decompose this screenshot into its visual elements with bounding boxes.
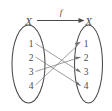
codomain-set-ellipse	[75, 25, 103, 103]
right-arrow-icon	[79, 18, 85, 23]
domain-element-1: 1	[29, 39, 34, 49]
function-mapping-diagram: X X f 1 2 3 4 1 2 3 4	[0, 0, 112, 111]
codomain-set-label: X	[84, 15, 93, 27]
diagram-canvas: X X f 1 2 3 4 1 2 3 4	[0, 0, 112, 111]
codomain-element-2: 2	[84, 53, 89, 63]
function-label: f	[60, 7, 64, 17]
domain-element-4: 4	[29, 81, 34, 91]
domain-element-2: 2	[29, 53, 34, 63]
codomain-element-1: 1	[84, 39, 89, 49]
arrow-head-to-2	[75, 57, 81, 60]
mapping-line-2-to-4	[36, 57, 80, 85]
domain-element-3: 3	[29, 67, 34, 77]
domain-set-label: X	[24, 15, 33, 27]
codomain-element-3: 3	[84, 67, 89, 77]
domain-set-ellipse	[12, 25, 45, 103]
mapping-line-1-to-3	[36, 44, 80, 72]
mapping-line-4-to-1	[36, 44, 80, 86]
arrow-head-to-3	[76, 68, 82, 73]
codomain-element-4: 4	[84, 81, 89, 91]
